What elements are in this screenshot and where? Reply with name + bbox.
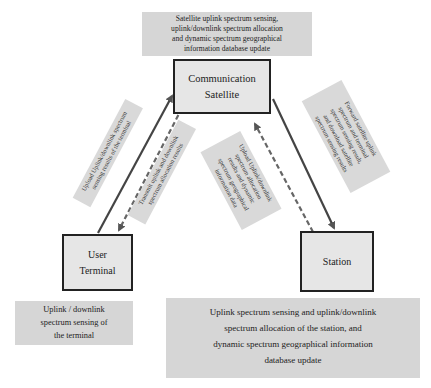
node-label: Terminal xyxy=(80,263,116,279)
node-label: Satellite xyxy=(205,87,239,103)
node-communication-satellite: Communication Satellite xyxy=(173,59,271,114)
node-label: Communication xyxy=(188,71,256,87)
caption-line: Uplink spectrum sensing and uplink/downl… xyxy=(166,304,420,320)
station-caption: Uplink spectrum sensing and uplink/downl… xyxy=(166,298,420,378)
node-user-terminal: User Terminal xyxy=(62,234,133,291)
caption-line: dynamic spectrum geographical informatio… xyxy=(166,336,420,352)
caption-line: spectrum sensing of xyxy=(15,316,133,329)
node-label: User xyxy=(88,247,107,263)
terminal-caption: Uplink / downlink spectrum sensing of th… xyxy=(15,301,133,345)
caption-line: information database update xyxy=(142,44,312,54)
satellite-caption: Satellite uplink spectrum sensing, uplin… xyxy=(142,12,312,56)
caption-line: database update xyxy=(166,352,420,368)
caption-line: the terminal xyxy=(15,329,133,342)
caption-line: uplink/downlink spectrum allocation xyxy=(142,24,312,34)
caption-line: Satellite uplink spectrum sensing, xyxy=(142,14,312,24)
node-station: Station xyxy=(300,231,374,292)
caption-line: Uplink / downlink xyxy=(15,303,133,316)
node-label: Station xyxy=(323,256,351,267)
caption-line: spectrum allocation of the station, and xyxy=(166,320,420,336)
caption-line: and dynamic spectrum geographical xyxy=(142,34,312,44)
